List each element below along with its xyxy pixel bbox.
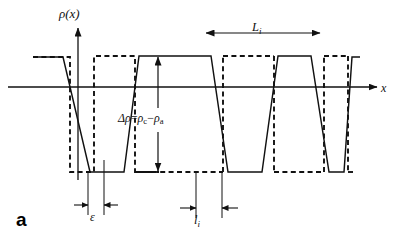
density-profile-plot (0, 0, 396, 245)
period-label: Li (252, 21, 261, 36)
interface-width-dimension (74, 160, 118, 215)
period-label-subscript: i (259, 26, 262, 36)
ideal-step-profile-dashed (33, 56, 356, 172)
amplitude-equation-label: Δρ=ρc−ρa (118, 112, 164, 126)
minus-sign: − (147, 111, 154, 125)
interface-width-label: ε (90, 211, 95, 223)
y-axis-label: ρ(x) (59, 7, 80, 20)
smoothed-density-profile (33, 56, 360, 172)
subscript-a: a (160, 116, 164, 126)
equals-sign: = (131, 111, 138, 125)
x-axis-label: x (381, 82, 386, 94)
segment-label-subscript: i (197, 219, 200, 229)
segment-width-dimension (180, 172, 238, 218)
figure-panel-a: ρ(x) x Li Δρ=ρc−ρa ε li a (0, 0, 396, 245)
panel-label: a (16, 210, 27, 229)
segment-width-label: li (194, 214, 200, 229)
